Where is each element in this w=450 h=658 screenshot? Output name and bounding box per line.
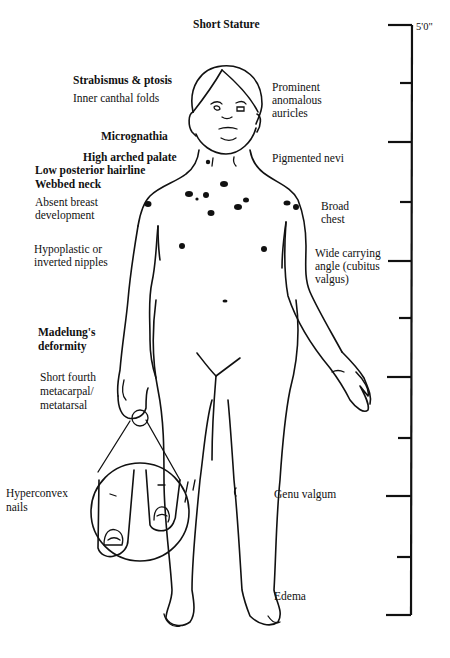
label-low-hairline: Low posterior hairline: [35, 163, 145, 177]
label-genu-valgum: Genu valgum: [274, 487, 336, 501]
ruler-label-5ft: 5'0": [416, 20, 433, 34]
label-high-arched-palate: High arched palate: [83, 150, 177, 164]
label-hyperconvex-2: nails: [6, 500, 28, 514]
label-carrying-angle-3: valgus): [315, 272, 349, 286]
label-absent-breast-1: Absent breast: [35, 195, 98, 209]
label-metacarpal-1: Short fourth: [40, 370, 96, 384]
magnified-nails-inset: [91, 420, 189, 561]
head-drawing: [189, 66, 262, 154]
label-carrying-angle-1: Wide carrying: [315, 246, 381, 260]
label-madelung-2: deformity: [38, 339, 87, 353]
label-auricles-1: Prominent: [272, 80, 320, 94]
label-hyperconvex-1: Hyperconvex: [6, 486, 68, 500]
label-micrognathia: Micrognathia: [101, 129, 168, 143]
label-metacarpal-3: metatarsal: [40, 398, 87, 412]
label-absent-breast-2: development: [35, 208, 94, 222]
label-webbed-neck: Webbed neck: [35, 177, 101, 191]
label-edema: Edema: [274, 589, 306, 603]
label-nipples-2: inverted nipples: [34, 255, 108, 269]
height-ruler: [386, 25, 412, 615]
label-strabismus: Strabismus & ptosis: [73, 73, 172, 87]
label-metacarpal-2: metacarpal/: [40, 384, 94, 398]
title-short-stature: Short Stature: [193, 17, 260, 31]
label-nipples-1: Hypoplastic or: [34, 242, 102, 256]
label-auricles-2: anomalous: [272, 93, 322, 107]
turner-syndrome-diagram: Short Stature 5'0" Strabismus & ptosis I…: [0, 0, 450, 658]
label-auricles-3: auricles: [272, 106, 308, 120]
label-canthal-folds: Inner canthal folds: [73, 91, 159, 105]
label-carrying-angle-2: angle (cubitus: [315, 259, 380, 273]
label-broad-chest-1: Broad: [321, 199, 349, 213]
label-madelung-1: Madelung's: [38, 325, 96, 339]
label-pigmented-nevi: Pigmented nevi: [272, 151, 344, 165]
label-broad-chest-2: chest: [321, 212, 345, 226]
